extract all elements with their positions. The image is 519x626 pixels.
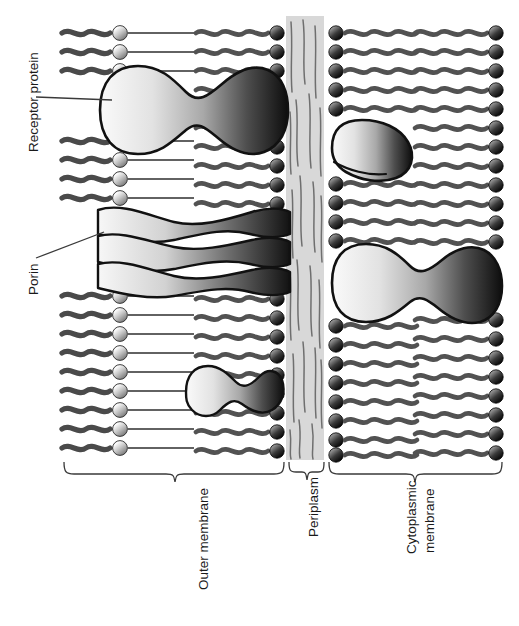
- diagram-canvas: [0, 0, 519, 626]
- porin-trimer-shape: [98, 208, 290, 298]
- label-outer-membrane: Outer membrane: [196, 488, 211, 590]
- region-braces: [64, 462, 502, 482]
- brace-cytoplasmic-membrane: [329, 462, 502, 482]
- cm-bean-protein: [332, 120, 412, 181]
- periplasm-space: [286, 16, 324, 460]
- label-cytoplasmic-membrane-line1: Cytoplasmic: [404, 480, 419, 554]
- cm-inner-leaflet: [415, 26, 503, 460]
- cm-large-protein: [332, 244, 502, 323]
- small-om-protein: [186, 366, 284, 416]
- label-receptor-protein: Receptor protein: [26, 52, 41, 152]
- label-cytoplasmic-membrane-line2: membrane: [422, 488, 437, 553]
- label-porin: Porin: [26, 263, 41, 295]
- label-periplasm: Periplasm: [306, 477, 321, 537]
- cell-envelope-figure: Receptor protein Porin Outer membrane Pe…: [0, 0, 519, 626]
- leader-porin: [36, 232, 104, 258]
- brace-outer-membrane: [64, 462, 284, 482]
